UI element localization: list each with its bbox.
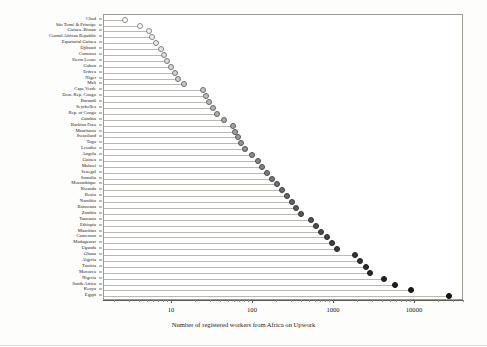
lollipop-stem (104, 61, 167, 62)
y-axis-tick (99, 36, 102, 37)
lollipop-stem (104, 273, 370, 274)
y-axis-tick (99, 18, 102, 19)
x-axis-minor-tick (210, 300, 211, 302)
lollipop-stem (104, 114, 217, 115)
y-axis-tick (99, 165, 102, 166)
figure-bottom-rule (0, 345, 487, 346)
x-axis-minor-tick (453, 300, 454, 302)
x-axis-minor-tick (309, 300, 310, 302)
x-axis-minor-tick (114, 300, 115, 302)
lollipop-stem (104, 155, 252, 156)
data-point[interactable] (259, 164, 265, 170)
x-axis-minor-tick (382, 300, 383, 302)
data-point[interactable] (221, 117, 227, 123)
y-axis-tick (99, 77, 102, 78)
lollipop-stem (104, 126, 233, 127)
lollipop-stem (104, 120, 224, 121)
y-axis-tick (99, 189, 102, 190)
lollipop-stem (104, 79, 178, 80)
data-point[interactable] (329, 240, 335, 246)
x-axis-tick-label: 10000 (406, 306, 422, 313)
lollipop-stem (104, 202, 292, 203)
lollipop-stem (104, 132, 235, 133)
data-point[interactable] (242, 146, 248, 152)
data-point[interactable] (175, 76, 181, 82)
data-point[interactable] (149, 34, 155, 40)
lollipop-stem (104, 296, 449, 297)
data-point[interactable] (214, 111, 220, 117)
data-point[interactable] (284, 193, 290, 199)
data-point[interactable] (313, 223, 319, 229)
y-axis-tick (99, 159, 102, 160)
y-axis-tick (99, 230, 102, 231)
data-point[interactable] (324, 234, 330, 240)
x-axis-minor-tick (357, 300, 358, 302)
x-axis-minor-tick (163, 300, 164, 302)
y-axis-tick (99, 254, 102, 255)
lollipop-stem (104, 214, 301, 215)
data-point[interactable] (264, 170, 270, 176)
data-point[interactable] (318, 229, 324, 235)
data-point[interactable] (137, 23, 143, 29)
y-axis-tick (99, 177, 102, 178)
lollipop-stem (104, 137, 238, 138)
x-axis-minor-tick (153, 300, 154, 302)
x-axis-minor-tick (325, 300, 326, 302)
y-axis-tick (99, 212, 102, 213)
lollipop-stem (104, 67, 171, 68)
data-point[interactable] (357, 258, 363, 264)
data-point[interactable] (122, 17, 128, 23)
data-point[interactable] (392, 282, 398, 288)
y-axis-tick (99, 201, 102, 202)
data-point[interactable] (255, 158, 261, 164)
x-axis-tick-label: 1000 (326, 306, 339, 313)
x-axis-minor-tick (228, 300, 229, 302)
data-point[interactable] (289, 199, 295, 205)
data-point[interactable] (381, 276, 387, 282)
data-point[interactable] (334, 246, 340, 252)
lollipop-stem (104, 149, 245, 150)
data-point[interactable] (181, 81, 187, 87)
lollipop-stem (104, 220, 311, 221)
y-axis-tick (99, 295, 102, 296)
y-axis-tick (99, 136, 102, 137)
data-point[interactable] (274, 181, 280, 187)
x-axis-minor-tick (147, 300, 148, 302)
y-axis-tick (99, 130, 102, 131)
x-axis-minor-tick (220, 300, 221, 302)
lollipop-stem (104, 267, 366, 268)
x-axis-minor-tick (315, 300, 316, 302)
data-point[interactable] (367, 270, 373, 276)
data-point[interactable] (279, 187, 285, 193)
data-point[interactable] (168, 64, 174, 70)
lollipop-stem (104, 108, 213, 109)
data-point[interactable] (153, 40, 159, 46)
lollipop-stem (104, 255, 355, 256)
x-axis-minor-tick (372, 300, 373, 302)
x-axis-minor-tick (195, 300, 196, 302)
y-axis-tick (99, 59, 102, 60)
lollipop-stem (104, 226, 316, 227)
lollipop-stem (104, 43, 156, 44)
data-point[interactable] (293, 205, 299, 211)
data-point[interactable] (352, 252, 358, 258)
y-axis-category-labels: ChadSão Tomé & PríncipeGuinea–BissauCent… (0, 14, 101, 300)
y-axis-tick (99, 101, 102, 102)
lollipop-stem (104, 167, 262, 168)
data-point[interactable] (446, 293, 452, 299)
data-point[interactable] (408, 287, 414, 293)
data-point[interactable] (249, 152, 255, 158)
y-axis-tick (99, 24, 102, 25)
data-point[interactable] (298, 211, 304, 217)
y-axis-tick (99, 71, 102, 72)
y-axis-tick (99, 65, 102, 66)
lollipop-stem (104, 84, 184, 85)
x-axis-major-tick (171, 300, 172, 303)
lollipop-stem (104, 261, 360, 262)
lollipop-stem (104, 237, 327, 238)
y-axis-tick (99, 207, 102, 208)
y-axis-tick (99, 54, 102, 55)
data-point[interactable] (308, 217, 314, 223)
data-point[interactable] (269, 176, 275, 182)
chart-figure: ChadSão Tomé & PríncipeGuinea–BissauCent… (0, 0, 487, 347)
